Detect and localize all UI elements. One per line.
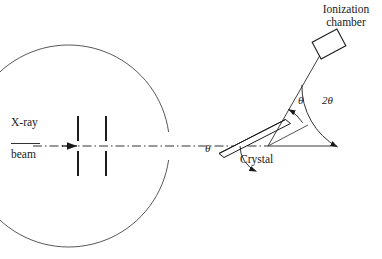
xray-diffractometer-diagram: Ionization chamber X-ray beam Crystal θ … xyxy=(0,0,382,259)
ionization-chamber-label-line2: chamber xyxy=(310,16,382,29)
theta-upper-label: θ xyxy=(298,94,303,106)
ionization-chamber-box xyxy=(312,29,346,59)
two-theta-label: 2θ xyxy=(322,94,333,106)
theta-upper-angle-arc xyxy=(288,109,302,123)
diagram-canvas xyxy=(0,0,382,259)
crystal-label: Crystal xyxy=(240,153,273,166)
theta-lower-label: θ xyxy=(205,142,210,154)
ionization-chamber-label-line1: Ionization xyxy=(323,3,370,15)
xray-label: X-ray xyxy=(11,116,38,129)
beam-label: beam xyxy=(11,148,36,161)
ionization-chamber-label: Ionization chamber xyxy=(310,3,382,29)
